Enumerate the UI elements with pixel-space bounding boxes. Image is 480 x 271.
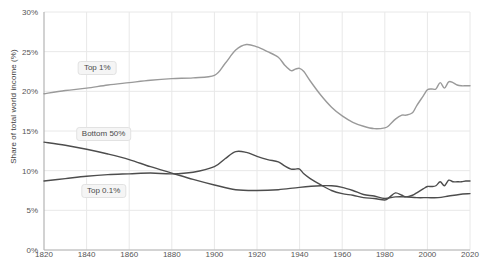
series-label-bottom-50: Bottom 50%	[76, 127, 132, 141]
chart-container: Share of total world income (%) 0%5%10%1…	[0, 0, 480, 271]
series-label-top-1: Top 1%	[78, 61, 117, 75]
plot-area	[0, 0, 480, 271]
series-label-top-0-1: Top 0.1%	[81, 184, 126, 198]
